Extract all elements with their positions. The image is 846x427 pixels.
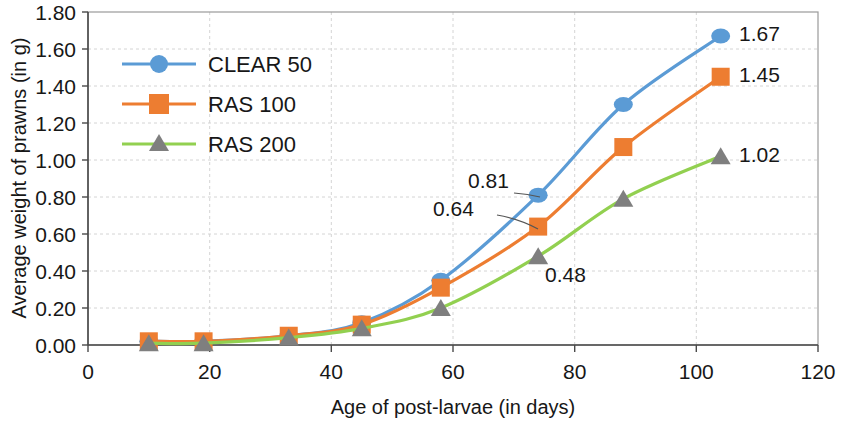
y-tick-label: 0.60 — [35, 223, 76, 246]
legend-label-ras-200: RAS 200 — [208, 132, 296, 157]
y-tick-label: 1.80 — [35, 1, 76, 24]
y-axis-title: Average weight of prawns (in g) — [8, 38, 30, 319]
point-label-ras100-74: 0.64 — [433, 197, 474, 220]
y-tick-label: 1.60 — [35, 38, 76, 61]
data-point-square-icon[interactable] — [529, 218, 547, 236]
x-tick-label: 100 — [679, 360, 714, 383]
legend-marker-square-icon — [149, 94, 169, 114]
x-tick-label: 0 — [82, 360, 94, 383]
x-axis-tick-labels: 0 20 40 60 80 100 120 — [82, 360, 835, 383]
data-point-circle-icon[interactable] — [711, 29, 730, 44]
y-tick-label: 0.00 — [35, 334, 76, 357]
legend-label-ras-100: RAS 100 — [208, 92, 296, 117]
point-label-ras200-104: 1.02 — [739, 143, 780, 166]
data-point-circle-icon[interactable] — [614, 97, 633, 112]
y-tick-label: 1.20 — [35, 112, 76, 135]
point-label-clear50-74: 0.81 — [468, 169, 509, 192]
point-label-ras200-74: 0.48 — [545, 263, 586, 286]
x-tick-label: 20 — [198, 360, 221, 383]
y-tick-label: 0.20 — [35, 297, 76, 320]
data-point-square-icon[interactable] — [712, 68, 730, 86]
x-tick-label: 80 — [563, 360, 586, 383]
y-tick-label: 0.40 — [35, 260, 76, 283]
y-tick-label: 1.40 — [35, 75, 76, 98]
legend-label-clear-50: CLEAR 50 — [208, 52, 312, 77]
x-tick-label: 40 — [320, 360, 343, 383]
x-axis-title: Age of post-larvae (in days) — [331, 396, 576, 418]
y-axis-tick-labels: 1.80 1.60 1.40 1.20 1.00 0.80 0.60 0.40 … — [35, 1, 76, 357]
x-tick-label: 60 — [441, 360, 464, 383]
data-point-square-icon[interactable] — [614, 138, 632, 156]
y-axis-ticks — [82, 12, 88, 345]
data-point-square-icon[interactable] — [432, 279, 450, 297]
point-label-clear50-104: 1.67 — [739, 22, 780, 45]
y-tick-label: 1.00 — [35, 149, 76, 172]
legend-marker-circle-icon — [150, 55, 168, 73]
line-chart: 1.80 1.60 1.40 1.20 1.00 0.80 0.60 0.40 … — [0, 0, 846, 427]
chart-container: 1.80 1.60 1.40 1.20 1.00 0.80 0.60 0.40 … — [0, 0, 846, 427]
x-tick-label: 120 — [800, 360, 835, 383]
point-label-ras100-104: 1.45 — [739, 63, 780, 86]
y-tick-label: 0.80 — [35, 186, 76, 209]
